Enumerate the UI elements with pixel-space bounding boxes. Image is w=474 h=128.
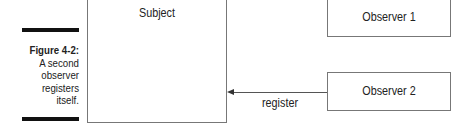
subject-box: Subject bbox=[87, 0, 227, 123]
figure-caption: Figure 4-2: A second observer registers … bbox=[9, 44, 79, 107]
observer1-box: Observer 1 bbox=[327, 0, 451, 37]
figure-number: Figure 4-2: bbox=[9, 44, 79, 57]
observer2-label: Observer 2 bbox=[334, 84, 444, 98]
register-arrow-line bbox=[232, 92, 327, 93]
observer1-label: Observer 1 bbox=[334, 10, 444, 24]
caption-line: itself. bbox=[9, 94, 79, 107]
caption-line: observer bbox=[9, 69, 79, 82]
caption-line: registers bbox=[9, 82, 79, 95]
subject-label: Subject bbox=[95, 6, 219, 20]
caption-bottom-rule bbox=[22, 117, 79, 121]
arrowhead-icon bbox=[227, 89, 234, 95]
caption-line: A second bbox=[9, 57, 79, 70]
caption-top-rule bbox=[22, 28, 79, 32]
observer2-box: Observer 2 bbox=[327, 72, 451, 111]
register-edge-label: register bbox=[262, 96, 298, 110]
